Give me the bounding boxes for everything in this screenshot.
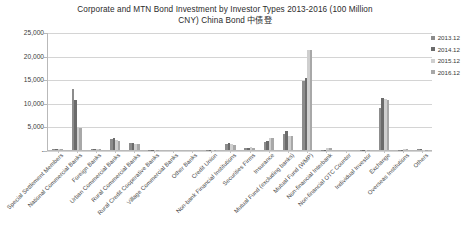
bar-group[interactable]	[106, 33, 125, 150]
bar-group[interactable]	[355, 33, 374, 150]
bar-group[interactable]	[317, 33, 336, 150]
legend-label: 2016.12	[438, 69, 460, 76]
plot-area	[47, 33, 432, 151]
bar-group[interactable]	[221, 33, 240, 150]
bar[interactable]	[99, 149, 102, 150]
bar-group[interactable]	[86, 33, 105, 150]
y-tick-label: -	[0, 147, 44, 154]
legend-swatch-icon	[431, 59, 435, 63]
bar-group[interactable]	[259, 33, 278, 150]
legend-swatch-icon	[431, 70, 435, 74]
y-tick-label: 20,000	[0, 53, 44, 60]
bar[interactable]	[310, 50, 313, 150]
legend-item[interactable]: 2015.12	[431, 57, 460, 64]
legend-label: 2015.12	[438, 57, 460, 64]
bar-group[interactable]	[413, 33, 432, 150]
y-tick-label: 5,000	[0, 123, 44, 130]
legend: 2013.122014.122015.122016.12	[431, 34, 460, 76]
bar-group[interactable]	[163, 33, 182, 150]
legend-label: 2014.12	[438, 46, 460, 53]
bar-group[interactable]	[374, 33, 393, 150]
chart-title: Corporate and MTN Bond Investment by Inv…	[60, 4, 390, 26]
legend-swatch-icon	[431, 36, 435, 40]
y-tick-label: 15,000	[0, 76, 44, 83]
bar[interactable]	[233, 145, 236, 150]
legend-item[interactable]: 2014.12	[431, 46, 460, 53]
bar[interactable]	[60, 149, 63, 150]
legend-label: 2013.12	[438, 34, 460, 41]
bar-group[interactable]	[278, 33, 297, 150]
bar[interactable]	[252, 148, 255, 150]
bar[interactable]	[137, 144, 140, 150]
bar-group[interactable]	[48, 33, 67, 150]
legend-item[interactable]: 2016.12	[431, 69, 460, 76]
bar[interactable]	[291, 136, 294, 150]
bar-group[interactable]	[144, 33, 163, 150]
y-tick-label: 10,000	[0, 100, 44, 107]
bar-group[interactable]	[125, 33, 144, 150]
x-axis-category-labels: Special Settlement MembersNational Comme…	[47, 152, 432, 252]
bar-group[interactable]	[298, 33, 317, 150]
bar[interactable]	[406, 149, 409, 150]
legend-swatch-icon	[431, 47, 435, 51]
bar[interactable]	[79, 128, 82, 150]
bar-group[interactable]	[67, 33, 86, 150]
y-tick-label: 25,000	[0, 29, 44, 36]
bar[interactable]	[329, 148, 332, 150]
bar[interactable]	[118, 141, 121, 150]
bar-group[interactable]	[240, 33, 259, 150]
chart-title-line-1: Corporate and MTN Bond Investment by Inv…	[60, 4, 390, 15]
bar[interactable]	[387, 100, 390, 151]
bar-group[interactable]	[336, 33, 355, 150]
bar-group[interactable]	[202, 33, 221, 150]
x-category-label: Others	[413, 152, 430, 169]
bar-group[interactable]	[394, 33, 413, 150]
x-category-label: Individual Investor	[333, 152, 371, 190]
chart-container: Corporate and MTN Bond Investment by Inv…	[0, 0, 468, 252]
chart-title-line-2: CNY) China Bond 中债登	[60, 15, 390, 26]
bar[interactable]	[271, 138, 274, 150]
legend-item[interactable]: 2013.12	[431, 34, 460, 41]
x-axis	[47, 150, 432, 151]
bars-layer	[48, 33, 432, 150]
bar-group[interactable]	[182, 33, 201, 150]
